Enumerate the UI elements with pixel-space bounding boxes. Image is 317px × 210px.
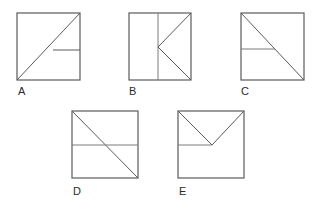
figure-d [72,111,138,178]
figure-label-a: A [18,86,26,97]
figure-a [17,13,80,80]
figure-c [241,13,304,80]
figure-page: A B C D E [0,0,317,210]
figure-b-diagonal-bottomright-to-center [158,47,191,80]
figure-c-diagonal-topleft-bottomright [241,13,304,80]
figure-a-diagonal-bottomleft-topright [17,13,80,80]
figure-e [178,111,244,178]
figure-e-diagonal-topright-to-apex [212,111,244,145]
figure-e-diagonal-topleft-to-apex [178,111,212,145]
figure-label-b: B [129,86,137,97]
figure-label-e: E [179,186,187,197]
figure-canvas [0,0,317,210]
figure-label-d: D [73,186,81,197]
figure-b-diagonal-topright-to-center [158,13,191,47]
figure-label-c: C [241,86,249,97]
figure-b [129,13,191,80]
